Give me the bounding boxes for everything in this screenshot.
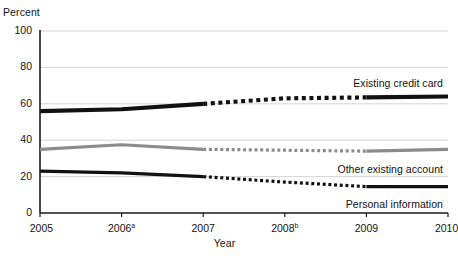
x-tick-label: 2007 <box>192 222 215 234</box>
series-solid-segment <box>366 149 448 151</box>
x-tick-label: 2008b <box>271 222 298 234</box>
y-tick-label: 0 <box>2 206 32 218</box>
series-label-other-existing-account: Other existing account <box>337 163 443 175</box>
series-label-personal-information: Personal information <box>346 198 443 210</box>
x-tick-label: 2006a <box>108 222 135 234</box>
y-tick-label: 80 <box>2 60 32 72</box>
y-tick-label: 60 <box>2 97 32 109</box>
x-tick-label: 2010 <box>435 222 458 234</box>
series-label-existing-credit-card: Existing credit card <box>353 77 443 89</box>
x-tick-label: 2009 <box>355 222 378 234</box>
y-tick-label: 40 <box>2 133 32 145</box>
y-tick-label: 20 <box>2 170 32 182</box>
series-solid-segment <box>40 171 203 176</box>
series-solid-segment <box>40 145 203 150</box>
series-dotted-segment <box>203 149 366 151</box>
series-dotted-segment <box>203 97 366 103</box>
series-2 <box>40 145 448 151</box>
y-tick-label: 100 <box>2 24 32 36</box>
x-tick-label: 2005 <box>30 222 53 234</box>
series-solid-segment <box>40 104 203 111</box>
x-tick-footnote-marker: b <box>295 222 299 229</box>
series-solid-segment <box>366 97 448 98</box>
x-tick-footnote-marker: a <box>131 222 135 229</box>
series-dotted-segment <box>203 177 366 187</box>
x-axis-title: Year <box>0 237 449 249</box>
